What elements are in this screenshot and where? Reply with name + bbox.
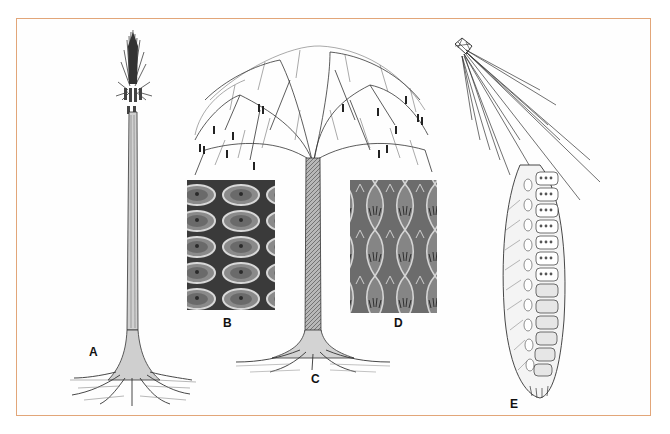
label-b: B	[223, 317, 232, 329]
illustration-canvas	[0, 0, 670, 434]
label-a: A	[89, 346, 98, 358]
label-d: D	[394, 317, 403, 329]
label-c: C	[311, 373, 320, 385]
bark-photo-b	[187, 180, 275, 310]
label-e: E	[510, 398, 518, 410]
cone-e-drawing	[455, 38, 600, 398]
bark-photo-d	[350, 180, 437, 313]
